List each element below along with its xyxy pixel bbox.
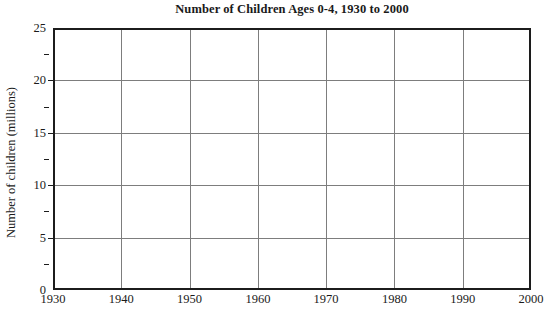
gridline-y-20 (55, 80, 529, 81)
x-tick-label-1980: 1980 (367, 292, 421, 307)
y-minor-tick-7-5 (44, 211, 49, 212)
y-minor-tick-22-5 (44, 54, 49, 55)
chart-figure: Number of Children Ages 0-4, 1930 to 200… (0, 0, 549, 324)
x-tick-label-1940: 1940 (94, 292, 148, 307)
gridline-x-1970 (326, 30, 327, 288)
y-minor-tick-17-5 (44, 107, 49, 108)
x-axis-tick-labels: 1930 1940 1950 1960 1970 1980 1990 2000 (53, 292, 531, 310)
gridline-y-5 (55, 238, 529, 239)
plot-area (53, 28, 531, 290)
y-tick-label-20: 20 (20, 74, 46, 86)
x-tick-label-1990: 1990 (436, 292, 490, 307)
gridline-x-1960 (258, 30, 259, 288)
gridline-y-10 (55, 185, 529, 186)
gridline-x-1990 (463, 30, 464, 288)
x-tick-label-1930: 1930 (26, 292, 80, 307)
y-tick-label-10: 10 (20, 179, 46, 191)
y-axis-tick-labels: 25 20 15 10 5 0 (14, 28, 46, 290)
gridline-y-15 (55, 133, 529, 134)
gridline-x-1940 (121, 30, 122, 288)
y-tick-label-5: 5 (20, 232, 46, 244)
gridline-x-1950 (190, 30, 191, 288)
chart-title: Number of Children Ages 0-4, 1930 to 200… (53, 2, 531, 16)
x-tick-label-1960: 1960 (231, 292, 285, 307)
gridline-x-1980 (394, 30, 395, 288)
x-tick-label-1970: 1970 (299, 292, 353, 307)
y-minor-tick-12-5 (44, 159, 49, 160)
x-tick-label-2000: 2000 (504, 292, 549, 307)
x-tick-label-1950: 1950 (163, 292, 217, 307)
y-minor-tick-2-5 (44, 264, 49, 265)
y-tick-label-15: 15 (20, 127, 46, 139)
y-tick-label-25: 25 (20, 22, 46, 34)
